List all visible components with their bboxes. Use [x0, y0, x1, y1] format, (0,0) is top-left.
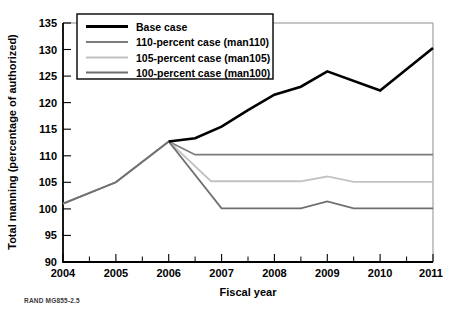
y-tick-label: 120	[39, 97, 57, 109]
y-tick-label: 95	[45, 229, 57, 241]
y-tick-label: 130	[39, 44, 57, 56]
x-tick-label: 2006	[156, 267, 180, 279]
y-tick-label: 115	[39, 123, 57, 135]
x-tick-label: 2005	[104, 267, 128, 279]
x-axis-tick-labels: 2004 2005 2006 2007 2008 2009 2010 2011	[51, 267, 443, 279]
y-tick-label: 100	[39, 203, 57, 215]
manning-line-chart: 90 95 100 105 110 115 120 125 130 135	[0, 0, 452, 319]
x-tick-label: 2010	[368, 267, 392, 279]
y-tick-label: 105	[39, 176, 57, 188]
x-axis-title: Fiscal year	[220, 286, 278, 298]
x-tick-label: 2004	[51, 267, 76, 279]
figure-container: 90 95 100 105 110 115 120 125 130 135	[0, 0, 452, 319]
x-tick-label: 2008	[262, 267, 286, 279]
y-tick-label: 125	[39, 70, 57, 82]
x-tick-label: 2007	[209, 267, 233, 279]
figure-credit: RAND MG855-2.5	[24, 297, 80, 304]
y-axis-tick-labels: 90 95 100 105 110 115 120 125 130 135	[39, 17, 57, 268]
legend-label-man110: 110-percent case (man110)	[136, 36, 269, 48]
chart-legend: Base case 110-percent case (man110) 105-…	[77, 14, 273, 79]
y-tick-label: 110	[39, 150, 57, 162]
y-tick-label: 135	[39, 17, 57, 29]
legend-label-man100: 100-percent case (man100)	[136, 67, 270, 79]
y-axis-title: Total manning (percentage of authorized)	[6, 34, 18, 250]
legend-label-base-case: Base case	[136, 21, 188, 33]
legend-label-man105: 105-percent case (man105)	[136, 52, 270, 64]
x-tick-label: 2011	[419, 267, 443, 279]
x-tick-label: 2009	[315, 267, 339, 279]
